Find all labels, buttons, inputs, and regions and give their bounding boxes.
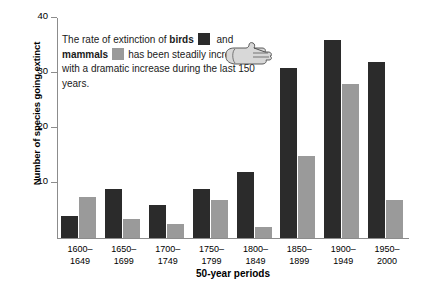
bar-birds bbox=[193, 189, 210, 239]
pointing-hand-icon bbox=[222, 40, 280, 72]
bar-group bbox=[321, 18, 365, 238]
bar-mammals bbox=[298, 156, 315, 239]
y-axis-tick-label: 20 bbox=[37, 120, 48, 131]
bar-birds bbox=[324, 40, 341, 238]
bar-mammals bbox=[79, 197, 96, 238]
legend-swatch-birds bbox=[198, 33, 210, 45]
legend-label-birds: birds bbox=[169, 34, 193, 45]
bar-birds bbox=[280, 68, 297, 239]
bar-mammals bbox=[211, 200, 228, 239]
legend-swatch-mammals bbox=[112, 48, 124, 60]
extinction-bar-chart: Number of species going extinct 10203040… bbox=[0, 0, 422, 299]
x-axis-tick-label: 1950–2000 bbox=[359, 244, 415, 267]
x-axis-line bbox=[57, 238, 409, 239]
legend-label-mammals: mammals bbox=[62, 49, 108, 60]
bar-mammals bbox=[386, 200, 403, 239]
bar-birds bbox=[149, 205, 166, 238]
bar-birds bbox=[105, 189, 122, 239]
y-axis-tick: 30 bbox=[51, 72, 57, 73]
y-axis-tick: 20 bbox=[51, 127, 57, 128]
bar-mammals bbox=[255, 227, 272, 238]
y-axis-tick-label: 40 bbox=[37, 10, 48, 21]
bar-group bbox=[277, 18, 321, 238]
caption-text-part1: The rate of extinction of bbox=[62, 34, 169, 45]
bar-birds bbox=[368, 62, 385, 238]
bar-mammals bbox=[342, 84, 359, 238]
y-axis-tick: 10 bbox=[51, 182, 57, 183]
bar-birds bbox=[61, 216, 78, 238]
bar-birds bbox=[237, 172, 254, 238]
y-axis-tick-label: 30 bbox=[37, 65, 48, 76]
y-axis-tick-label: 10 bbox=[37, 175, 48, 186]
x-axis-title: 50-year periods bbox=[57, 268, 409, 279]
bar-mammals bbox=[167, 224, 184, 238]
bar-mammals bbox=[123, 219, 140, 238]
bar-group bbox=[365, 18, 409, 238]
y-axis-tick: 40 bbox=[51, 17, 57, 18]
